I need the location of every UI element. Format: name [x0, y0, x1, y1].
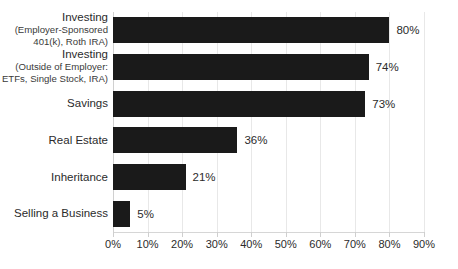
- gridline-60pct: [320, 12, 321, 232]
- x-tick: [355, 232, 356, 237]
- gridline-40pct: [251, 12, 252, 232]
- x-tick-label: 30%: [206, 238, 228, 250]
- x-tick: [113, 232, 114, 237]
- x-tick-label: 60%: [309, 238, 331, 250]
- category-label: Investing(Outside of Employer: ETFs, Sin…: [0, 48, 108, 86]
- category-label-primary: Savings: [0, 97, 108, 110]
- bar: [113, 127, 237, 153]
- bar-value-label: 36%: [237, 127, 267, 153]
- x-tick: [148, 232, 149, 237]
- x-tick: [182, 232, 183, 237]
- bar-value-label: 21%: [186, 164, 216, 190]
- bar: [113, 164, 186, 190]
- bar-chart: 80%74%73%36%21%5% Investing(Employer-Spo…: [0, 0, 458, 269]
- category-label: Real Estate: [0, 134, 108, 147]
- category-label-primary: Investing: [0, 11, 108, 24]
- x-tick: [320, 232, 321, 237]
- category-label-primary: Investing: [0, 48, 108, 61]
- gridline-30pct: [217, 12, 218, 232]
- bar-value-label: 5%: [130, 201, 154, 227]
- x-tick: [424, 232, 425, 237]
- x-tick-label: 90%: [413, 238, 435, 250]
- x-tick-label: 50%: [275, 238, 297, 250]
- bar: [113, 54, 369, 80]
- category-label-primary: Real Estate: [0, 134, 108, 147]
- category-label-secondary: (Employer-Sponsored 401(k), Roth IRA): [0, 24, 108, 49]
- plot-area: 80%74%73%36%21%5%: [113, 12, 424, 232]
- gridline-20pct: [182, 12, 183, 232]
- bar: [113, 201, 130, 227]
- category-label: Inheritance: [0, 171, 108, 184]
- bar-value-label: 80%: [389, 17, 419, 43]
- x-tick-label: 40%: [240, 238, 262, 250]
- x-tick-label: 0%: [105, 238, 121, 250]
- bar: [113, 17, 389, 43]
- category-label: Selling a Business: [0, 207, 108, 220]
- category-label-primary: Inheritance: [0, 171, 108, 184]
- x-tick-label: 80%: [378, 238, 400, 250]
- x-tick: [217, 232, 218, 237]
- x-tick-label: 10%: [137, 238, 159, 250]
- gridline-80pct: [389, 12, 390, 232]
- x-tick-label: 20%: [171, 238, 193, 250]
- x-tick: [251, 232, 252, 237]
- category-label-secondary: (Outside of Employer: ETFs, Single Stock…: [0, 61, 108, 86]
- gridline-70pct: [355, 12, 356, 232]
- category-label: Savings: [0, 97, 108, 110]
- bar-value-label: 73%: [365, 91, 395, 117]
- gridline-50pct: [286, 12, 287, 232]
- category-label: Investing(Employer-Sponsored 401(k), Rot…: [0, 11, 108, 49]
- x-axis-line: [113, 232, 425, 233]
- gridline-90pct: [424, 12, 425, 232]
- gridline-10pct: [148, 12, 149, 232]
- bar: [113, 91, 365, 117]
- category-label-primary: Selling a Business: [0, 207, 108, 220]
- bar-value-label: 74%: [369, 54, 399, 80]
- x-tick-label: 70%: [344, 238, 366, 250]
- x-tick: [389, 232, 390, 237]
- gridline-0pct: [113, 12, 114, 232]
- x-tick: [286, 232, 287, 237]
